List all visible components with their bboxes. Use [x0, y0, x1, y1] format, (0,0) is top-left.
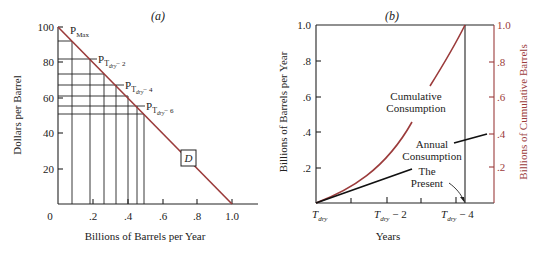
- figure: (a): [0, 0, 546, 254]
- p-tdry-2-label: PTdry− 2: [98, 53, 126, 69]
- svg-text:Tdry − 4: Tdry − 4: [441, 208, 474, 223]
- svg-text:1.0: 1.0: [297, 19, 311, 31]
- svg-text:.2: .2: [303, 162, 311, 174]
- svg-text:.4: .4: [497, 128, 506, 140]
- panel-b-ylabel-left: Billions of Barrels per Year: [277, 51, 289, 172]
- panel-b-right-axis: [489, 25, 494, 203]
- svg-text:.4: .4: [303, 126, 312, 138]
- p-tdry-4-label: PTdry− 4: [125, 79, 153, 95]
- svg-text:1.0: 1.0: [497, 19, 511, 31]
- panel-a-grid: [58, 41, 144, 204]
- panel-a-ylabel: Dollars per Barrel: [11, 75, 23, 154]
- panel-b: (b): [277, 9, 529, 242]
- demand-label: D: [184, 152, 193, 164]
- svg-text:.2: .2: [89, 210, 97, 222]
- panel-b-xticks: Tdry Tdry − 2 Tdry − 4: [312, 208, 474, 223]
- svg-text:.8: .8: [497, 56, 506, 68]
- svg-text:Tdry − 2: Tdry − 2: [374, 208, 407, 223]
- svg-text:Tdry: Tdry: [312, 208, 328, 223]
- panel-a-xlabel: Billions of Barrels per Year: [85, 230, 206, 242]
- panel-a: (a): [11, 9, 258, 242]
- panel-b-ylabel-right: Billions of Cumulative Barrels: [517, 44, 529, 179]
- svg-text:1.0: 1.0: [225, 210, 239, 222]
- svg-text:40: 40: [43, 127, 55, 139]
- svg-text:60: 60: [43, 92, 55, 104]
- panel-b-title: (b): [385, 9, 399, 23]
- svg-text:The: The: [418, 165, 435, 177]
- svg-text:.6: .6: [303, 91, 312, 103]
- panel-b-xlabel: Years: [376, 230, 401, 242]
- svg-text:Cumulative: Cumulative: [390, 90, 441, 102]
- demand-curve: [58, 27, 232, 204]
- p-max-label: PMax: [70, 24, 89, 39]
- svg-text:.4: .4: [124, 210, 133, 222]
- price-annotations: PMax PTdry− 2 PTdry− 4 PTdry− 6: [70, 24, 174, 116]
- svg-text:20: 20: [43, 163, 55, 175]
- svg-text:80: 80: [43, 56, 55, 68]
- panel-b-yticks-left: 1.0 .8 .6 .4 .2: [297, 19, 311, 174]
- panel-a-title: (a): [151, 9, 165, 23]
- panel-a-yticks: 100 80 60 40 20: [38, 21, 55, 175]
- svg-text:100: 100: [38, 21, 55, 33]
- svg-text:Present: Present: [411, 177, 443, 189]
- svg-text:.6: .6: [497, 91, 506, 103]
- svg-text:.8: .8: [303, 55, 312, 67]
- svg-text:.2: .2: [497, 161, 505, 173]
- svg-text:Consumption: Consumption: [402, 150, 462, 162]
- present-arrowhead-icon: [460, 197, 465, 203]
- svg-text:.8: .8: [193, 210, 202, 222]
- panel-b-axes: [316, 25, 494, 203]
- svg-text:Consumption: Consumption: [386, 102, 446, 114]
- panel-a-origin-label: 0: [47, 210, 53, 222]
- panel-b-yticks-right: 1.0 .8 .6 .4 .2: [497, 19, 511, 173]
- panel-a-xticks: .2 .4 .6 .8 1.0: [89, 210, 240, 222]
- annual-consumption-line: [316, 134, 487, 203]
- p-tdry-6-label: PTdry− 6: [146, 100, 174, 116]
- svg-text:Annual: Annual: [416, 138, 448, 150]
- svg-text:.6: .6: [159, 210, 168, 222]
